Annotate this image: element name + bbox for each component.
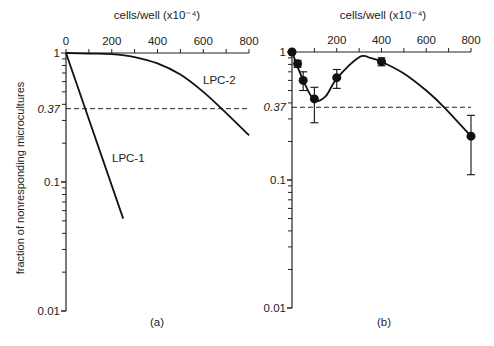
reference-label: 0.37 bbox=[38, 103, 61, 115]
x-tick-label: 200 bbox=[327, 34, 346, 46]
x-tick-label: 400 bbox=[148, 35, 167, 47]
series-lpc-2 bbox=[66, 53, 249, 135]
data-point bbox=[310, 94, 319, 103]
data-point bbox=[293, 59, 302, 68]
x-axis-label-a: cells/well (x10⁻⁴) bbox=[114, 9, 201, 21]
reference-label: 0.37 bbox=[264, 101, 287, 113]
y-axis-label: fraction of nonresponding microcultures bbox=[14, 81, 26, 274]
y-tick-label: 1 bbox=[54, 47, 60, 59]
y-tick-label: 0.1 bbox=[270, 174, 286, 186]
x-tick-label: 600 bbox=[417, 34, 436, 46]
panel-label-a: (a) bbox=[150, 316, 164, 328]
data-point bbox=[288, 48, 297, 57]
x-tick-label: 0 bbox=[63, 35, 69, 47]
data-point bbox=[299, 76, 308, 85]
panel-label-b: (b) bbox=[377, 316, 391, 328]
x-tick-label: 200 bbox=[102, 35, 121, 47]
lpc1-label: LPC-1 bbox=[112, 152, 145, 164]
data-point bbox=[332, 73, 341, 82]
x-tick-label: 800 bbox=[239, 35, 258, 47]
lpc2-label: LPC-2 bbox=[203, 74, 236, 86]
data-point bbox=[467, 132, 476, 141]
y-tick-label: 0.01 bbox=[38, 305, 60, 317]
y-tick-label: 1 bbox=[280, 46, 286, 58]
y-tick-label: 0.01 bbox=[264, 302, 286, 314]
panel-b: 20040060080010.10.010.37 bbox=[264, 34, 481, 314]
x-tick-label: 800 bbox=[461, 34, 480, 46]
x-axis-label-b: cells/well (x10⁻⁴) bbox=[340, 9, 427, 21]
y-tick-label: 0.1 bbox=[44, 176, 60, 188]
data-point bbox=[377, 57, 386, 66]
x-tick-label: 400 bbox=[372, 34, 391, 46]
x-tick-label: 600 bbox=[194, 35, 213, 47]
series-lpc-1 bbox=[66, 53, 123, 219]
chart-figure: fraction of nonresponding microcultures … bbox=[0, 0, 494, 346]
